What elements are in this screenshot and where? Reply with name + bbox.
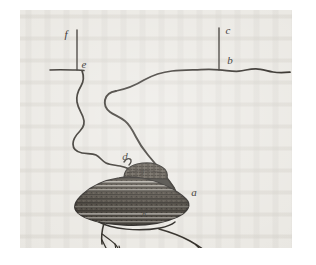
- left-soil-line: [50, 70, 84, 71]
- label-b: b: [227, 54, 233, 66]
- label-d: d: [122, 150, 128, 162]
- root-left-branch-2: [102, 240, 108, 248]
- root-left-tip-2: [119, 246, 124, 248]
- bulb-group: [70, 163, 200, 238]
- engraving-artwork: f e c b d a g h: [20, 10, 292, 248]
- left-runner-stem: [73, 71, 128, 169]
- root-right-main: [159, 229, 208, 248]
- label-c: c: [226, 24, 231, 36]
- label-f: f: [64, 28, 69, 40]
- label-g: g: [140, 166, 144, 175]
- right-leader-group: [116, 28, 290, 91]
- label-h: h: [142, 210, 146, 219]
- right-soil-line: [116, 69, 290, 91]
- label-a: a: [191, 186, 197, 198]
- engraving-plate: f e c b d a g h: [20, 10, 292, 248]
- root-system: [102, 223, 219, 248]
- label-e: e: [82, 58, 87, 70]
- figure-root: f e c b d a g h: [0, 0, 316, 265]
